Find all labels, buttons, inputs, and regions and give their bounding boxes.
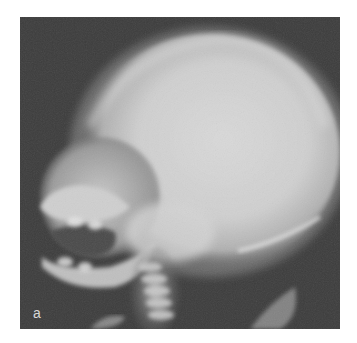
panel-label: a [33, 306, 41, 320]
skull-xray-image [20, 17, 340, 329]
xray-panel: a [20, 17, 340, 329]
